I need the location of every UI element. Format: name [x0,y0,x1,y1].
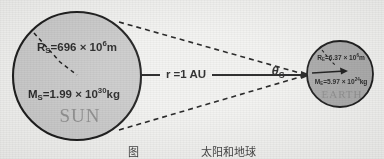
angle-subscript: S [279,70,285,80]
sun-mass-prefix: M [28,88,38,100]
earth-mass-unit: kg [360,78,368,86]
sun-radius-eq: =696 [51,41,77,53]
sun-group: RS=696 × 106m MS=1.99 × 1030kg SUN [13,12,141,140]
earth-group: RE=6.37 × 106m ME=5.97 × 1024kg EARTH [307,41,373,107]
angle-symbol: θ [271,63,278,78]
earth-mass-label: ME=5.97 × 1024kg [315,77,368,86]
earth-radius-unit: m [359,54,365,61]
distance-label: r =1 AU [166,68,206,80]
sun-name-label: SUN [59,105,100,126]
sun-radius-unit: m [107,41,117,53]
earth-mass-eq: =5.97 [323,78,340,85]
sun-earth-diagram: RS=696 × 106m MS=1.99 × 1030kg SUN r =1 … [0,0,384,159]
sun-mass-unit: kg [107,88,120,100]
earth-name-label: EARTH [321,88,362,100]
earth-radius-times: × 10 [342,54,357,61]
earth-mass-times: × 10 [340,78,355,85]
sun-radius-times: × 10 [76,41,102,53]
earth-radius-eq: =6.37 [325,54,342,61]
figure-caption: 图 太阳和地球 [0,146,384,159]
sun-mass-times: × 10 [72,88,98,100]
sun-mass-eq: =1.99 [43,88,72,100]
